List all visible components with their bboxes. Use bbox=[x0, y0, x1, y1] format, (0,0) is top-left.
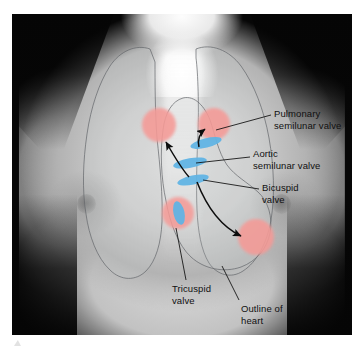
label-pulmonary-semilunar-valve: Pulmonarysemilunar valve bbox=[274, 108, 342, 131]
label-pulmonary-line1: Pulmonary bbox=[274, 108, 320, 119]
pulmonary-auscultation-point bbox=[198, 108, 230, 140]
label-bicuspid-valve: Bicuspidvalve bbox=[262, 182, 299, 205]
label-tricuspid-valve: Tricuspidvalve bbox=[172, 283, 211, 306]
label-tricuspid-line2: valve bbox=[172, 295, 195, 306]
label-outline-line1: Outline of bbox=[241, 303, 283, 314]
label-outline-line2: heart bbox=[241, 315, 263, 326]
aortic-auscultation-point bbox=[142, 108, 176, 142]
label-pulmonary-line2: semilunar valve bbox=[274, 120, 342, 131]
label-aortic-line1: Aortic bbox=[253, 148, 278, 159]
label-bicuspid-line1: Bicuspid bbox=[262, 182, 299, 193]
bicuspid-auscultation-point bbox=[238, 219, 274, 255]
label-bicuspid-line2: valve bbox=[262, 194, 285, 205]
figure-page: Pulmonarysemilunar valve Aorticsemilunar… bbox=[0, 0, 364, 347]
right-lung-outline bbox=[83, 47, 162, 278]
label-outline-of-heart: Outline ofheart bbox=[241, 303, 283, 326]
label-aortic-line2: semilunar valve bbox=[253, 160, 321, 171]
label-tricuspid-line1: Tricuspid bbox=[172, 283, 211, 294]
label-aortic-semilunar-valve: Aorticsemilunar valve bbox=[253, 148, 321, 171]
